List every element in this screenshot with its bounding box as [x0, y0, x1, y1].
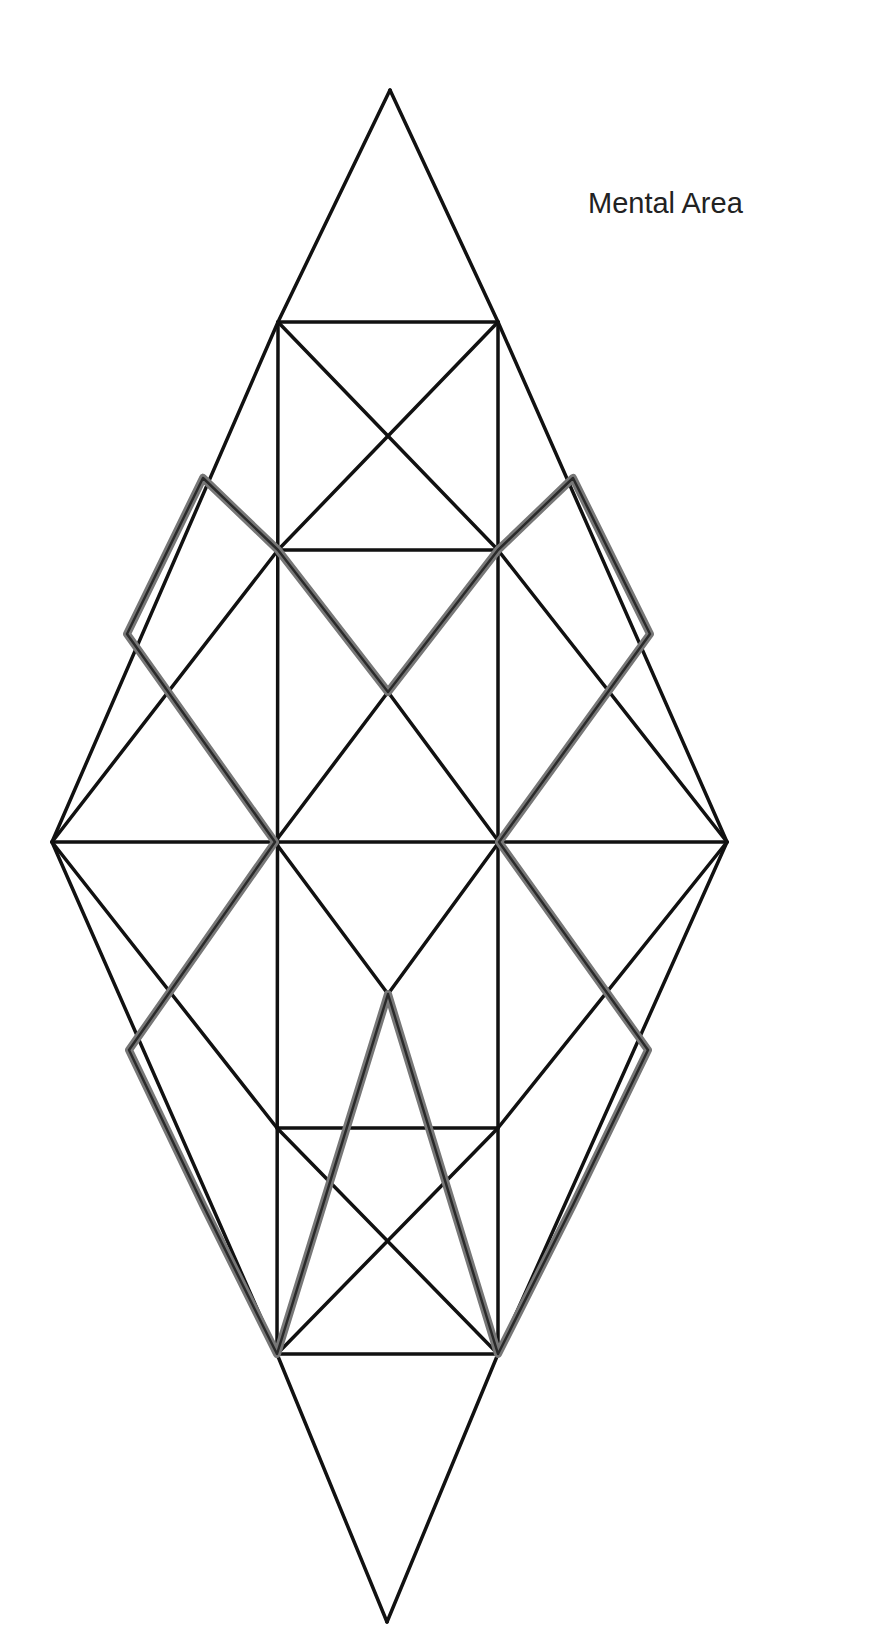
diagram-line [275, 692, 388, 842]
diagram-line [387, 1354, 498, 1622]
diagram-line [52, 322, 278, 842]
diagram-line [498, 322, 727, 842]
mental-area-diamond-diagram [0, 0, 878, 1644]
highlighted-outline [127, 478, 650, 1354]
diagram-line [275, 842, 388, 994]
diagram-label: Mental Area [588, 187, 743, 220]
highlight-path [127, 478, 650, 1354]
diagram-lines [52, 90, 727, 1622]
diagram-line [388, 842, 499, 994]
diagram-line [277, 1354, 387, 1622]
diagram-canvas: Mental Area [0, 0, 878, 1644]
highlight-path [127, 478, 650, 1354]
diagram-line [278, 90, 390, 322]
diagram-line [388, 692, 499, 842]
diagram-line [390, 90, 498, 322]
